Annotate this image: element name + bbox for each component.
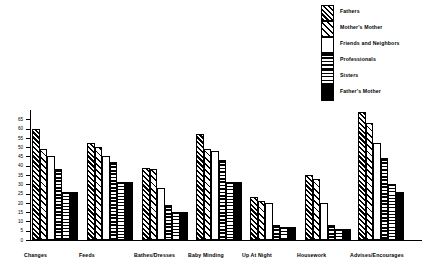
y-axis-tick-label: 20 (9, 201, 23, 206)
y-axis-tick-label: 30 (9, 182, 23, 187)
y-axis-tick-label: 65 (9, 117, 23, 122)
legend-swatch-icon (321, 53, 334, 69)
bar[interactable] (157, 188, 165, 240)
x-axis-category-label: Up At Night (242, 252, 272, 258)
bar[interactable] (288, 227, 296, 240)
bar[interactable] (328, 225, 336, 240)
y-axis-tick-label: 40 (9, 163, 23, 168)
legend-swatch-icon (321, 21, 334, 37)
bar[interactable] (150, 169, 158, 240)
bar-chart: FathersMother's MotherFriends and Neighb… (0, 0, 434, 269)
legend-item[interactable]: Mother's Mother (321, 21, 433, 37)
bar-group (250, 110, 296, 240)
plot-area (30, 110, 422, 240)
legend-swatch-icon (321, 69, 334, 85)
bar-group (32, 110, 78, 240)
legend-item-label: Father's Mother (340, 88, 381, 94)
legend-item[interactable]: Friends and Neighbors (321, 37, 433, 53)
bar-group (358, 110, 404, 240)
x-axis-category-label: Feeds (79, 252, 95, 258)
bar-group (196, 110, 242, 240)
y-axis-tick-label: 5 (9, 228, 23, 233)
bar[interactable] (117, 182, 125, 240)
bar[interactable] (396, 192, 404, 240)
bar[interactable] (273, 225, 281, 240)
bar[interactable] (125, 182, 133, 240)
y-axis-tick-label: 15 (9, 210, 23, 215)
x-axis-category-label: Bathes/Dresses (134, 252, 175, 258)
bar[interactable] (32, 129, 40, 240)
x-axis-category-label: Housework (297, 252, 326, 258)
bar[interactable] (142, 168, 150, 240)
legend-swatch-icon (321, 85, 334, 101)
legend-item[interactable]: Fathers (321, 5, 433, 21)
bar-group (87, 110, 133, 240)
bar[interactable] (358, 112, 366, 240)
bar[interactable] (280, 227, 288, 240)
x-axis-category-label: Changes (24, 252, 47, 258)
y-axis-tick-label: 35 (9, 173, 23, 178)
x-axis-category-label: Baby Minding (188, 252, 224, 258)
y-axis-tick-label: 50 (9, 145, 23, 150)
legend-item[interactable]: Father's Mother (321, 85, 433, 101)
bar-group (142, 110, 188, 240)
bar[interactable] (47, 156, 55, 240)
legend-swatch-icon (321, 5, 334, 21)
bar[interactable] (234, 182, 242, 240)
legend-item-label: Fathers (340, 8, 360, 14)
y-axis-tick-label: 25 (9, 191, 23, 196)
bar[interactable] (366, 123, 374, 240)
bar[interactable] (180, 212, 188, 240)
bar[interactable] (313, 179, 321, 240)
y-axis-tick-label: 10 (9, 219, 23, 224)
bar[interactable] (87, 143, 95, 240)
bar[interactable] (373, 143, 381, 240)
y-axis-tick-label: 0 (9, 238, 23, 243)
x-axis-line (30, 240, 422, 241)
bar[interactable] (343, 229, 351, 240)
y-axis-tick-label: 60 (9, 126, 23, 131)
legend-item-label: Mother's Mother (340, 24, 382, 30)
legend-item-label: Friends and Neighbors (340, 40, 400, 46)
bar[interactable] (196, 134, 204, 240)
bar[interactable] (165, 205, 173, 240)
bar[interactable] (70, 192, 78, 240)
legend-item[interactable]: Sisters (321, 69, 433, 85)
legend-item[interactable]: Professionals (321, 53, 433, 69)
bar[interactable] (55, 169, 63, 240)
bar[interactable] (320, 203, 328, 240)
x-axis-category-label: Advises/Encourages (350, 252, 404, 258)
bar[interactable] (265, 203, 273, 240)
bar[interactable] (250, 197, 258, 240)
bar[interactable] (95, 147, 103, 240)
bar[interactable] (381, 158, 389, 240)
bar[interactable] (204, 149, 212, 240)
bar[interactable] (226, 182, 234, 240)
bar[interactable] (62, 192, 70, 240)
bar[interactable] (102, 156, 110, 240)
bar[interactable] (40, 149, 48, 240)
bar[interactable] (258, 201, 266, 240)
legend-item-label: Professionals (340, 56, 376, 62)
bar[interactable] (110, 162, 118, 240)
bar-group (305, 110, 351, 240)
bar[interactable] (335, 229, 343, 240)
bar[interactable] (219, 160, 227, 240)
bar[interactable] (305, 175, 313, 240)
y-axis-tick-label: 55 (9, 136, 23, 141)
bar[interactable] (211, 151, 219, 240)
chart-legend: FathersMother's MotherFriends and Neighb… (321, 5, 433, 101)
legend-item-label: Sisters (340, 72, 358, 78)
bar[interactable] (172, 212, 180, 240)
y-axis-tick-label: 45 (9, 154, 23, 159)
bar[interactable] (388, 184, 396, 240)
legend-swatch-icon (321, 37, 334, 53)
